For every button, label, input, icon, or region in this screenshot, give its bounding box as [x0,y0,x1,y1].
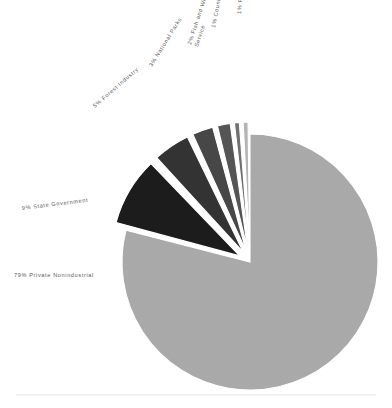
pie-label-federal-government: 1% Federal Government [236,0,248,14]
pie-label-state-government: 9% State Government [21,197,88,211]
pie-label-line: 3% National Parks [148,16,183,67]
pie-label-line: 79% Private Nonindustrial [14,272,94,278]
pie-label-line: 1% County/Municipal [210,0,228,28]
pie-label-line: 1% Federal Government [236,0,248,14]
pie-chart: 79% Private Nonindustrial9% State Govern… [0,0,392,408]
pie-slices-group [116,122,378,390]
pie-label-line: 9% State Government [21,197,88,211]
pie-label-forest-industry: 5% Forest Industry [92,66,140,109]
pie-label-private-nonindustrial: 79% Private Nonindustrial [14,272,94,278]
pie-label-national-parks: 3% National Parks [148,16,183,67]
pie-slice-private-nonindustrial [122,134,378,390]
pie-chart-container: 79% Private Nonindustrial9% State Govern… [0,0,392,408]
pie-label-county-municipal: 1% County/Municipal [210,0,228,28]
pie-label-line: 5% Forest Industry [92,66,140,109]
